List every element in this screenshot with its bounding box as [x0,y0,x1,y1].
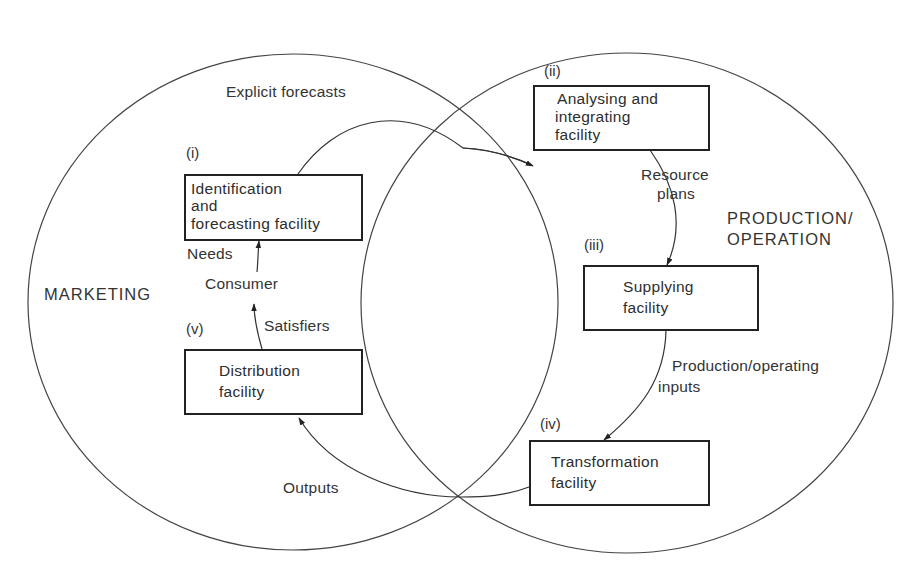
facility-ii-numeral: (ii) [544,62,561,79]
facility-v-numeral: (v) [186,320,204,337]
facility-i-line2: and [191,197,218,215]
production-inputs-arrow [604,330,666,440]
outputs-label: Outputs [283,479,339,497]
facility-ii-line3: facility [555,126,600,144]
production-inputs-label-line1: Production/operating [672,357,819,375]
facility-v-line2: facility [219,383,264,401]
satisfiers-arrow [254,304,262,349]
identification-forecasting-facility-box: Identification and forecasting facility [184,174,363,241]
facility-iv-line1: Transformation [551,453,659,471]
production-label-line1: PRODUCTION/ [727,209,854,228]
production-label-line2: OPERATION [727,230,832,249]
facility-i-line1: Identification [191,180,282,198]
facility-iii-line1: Supplying [623,278,694,296]
transformation-facility-box: Transformation facility [529,440,710,506]
supplying-facility-box: Supplying facility [583,265,759,331]
facility-ii-line2: integrating [555,108,631,126]
facility-ii-line1: Analysing and [557,90,658,108]
marketing-label: MARKETING [44,285,151,304]
facility-v-line1: Distribution [219,362,300,380]
production-inputs-label-line2: inputs [658,378,701,396]
needs-arrow [257,241,259,272]
consumer-label: Consumer [205,275,278,293]
facility-iii-line2: facility [623,299,668,317]
explicit-forecasts-label: Explicit forecasts [226,83,346,101]
resource-plans-label-line1: Resource [641,166,709,184]
explicit-forecasts-arrow [298,121,532,174]
facility-iii-numeral: (iii) [584,236,604,253]
satisfiers-label: Satisfiers [264,317,330,335]
distribution-facility-box: Distribution facility [184,349,363,415]
facility-iv-line2: facility [551,474,596,492]
resource-plans-label-line2: plans [657,185,695,203]
facility-i-line3: forecasting facility [191,215,320,233]
analysing-integrating-facility-box: Analysing and integrating facility [533,85,710,151]
facility-i-numeral: (i) [186,144,199,161]
facility-iv-numeral: (iv) [540,415,561,432]
needs-label: Needs [187,245,233,263]
